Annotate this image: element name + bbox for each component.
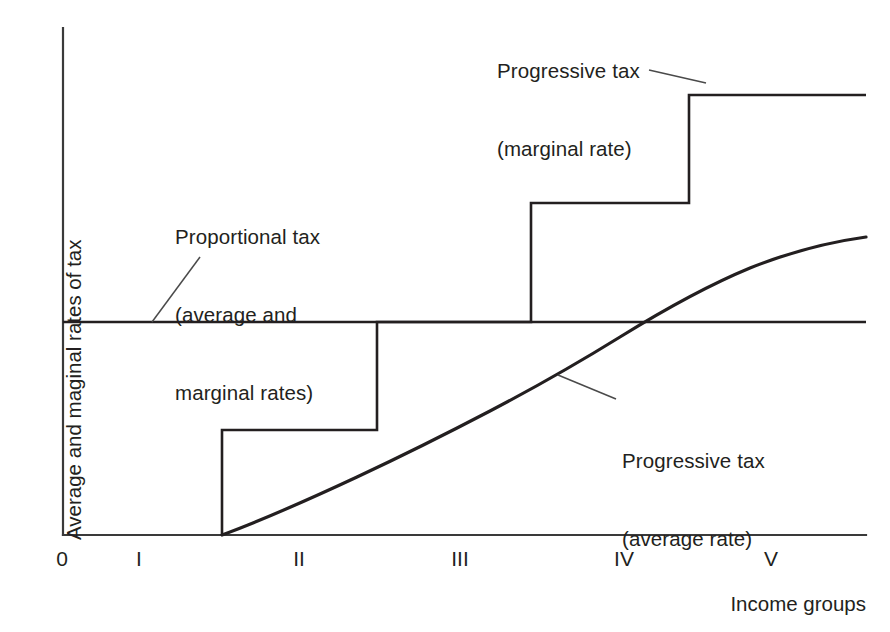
progressive-average-leader-line bbox=[558, 375, 616, 399]
annotation-progressive-marginal-line-1: Progressive tax bbox=[497, 58, 640, 84]
y-axis-title: Average and maginal rates of tax bbox=[54, 20, 94, 540]
x-tick-label-2: II bbox=[293, 547, 305, 570]
annotation-progressive-marginal-line-2: (marginal rate) bbox=[497, 136, 640, 162]
annotation-progressive-marginal: Progressive tax (marginal rate) bbox=[497, 6, 640, 214]
progressive-marginal-leader-line bbox=[649, 70, 706, 83]
annotation-proportional-line-1: Proportional tax bbox=[175, 224, 320, 250]
x-tick-label-1: I bbox=[136, 547, 142, 570]
x-tick-label-3: III bbox=[451, 547, 469, 570]
annotation-progressive-average-line-1: Progressive tax bbox=[622, 448, 765, 474]
y-axis-title-wrap: Average and maginal rates of tax bbox=[14, 20, 54, 540]
annotation-progressive-average-line-2: (average rate) bbox=[622, 526, 765, 552]
x-tick-label-5: V bbox=[764, 547, 778, 570]
annotation-proportional-tax: Proportional tax (average and marginal r… bbox=[175, 172, 320, 458]
annotation-proportional-line-3: marginal rates) bbox=[175, 380, 320, 406]
annotation-progressive-average: Progressive tax (average rate) bbox=[622, 396, 765, 604]
annotation-proportional-line-2: (average and bbox=[175, 302, 320, 328]
x-tick-label-0: 0 bbox=[56, 547, 68, 570]
tax-rates-chart: 0 I II III IV V Average and maginal rate… bbox=[0, 0, 890, 632]
